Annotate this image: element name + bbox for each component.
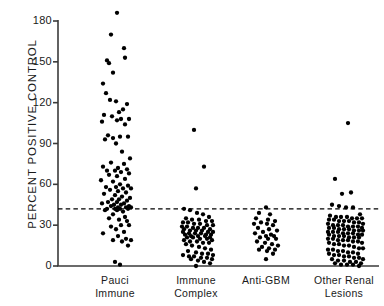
data-point bbox=[361, 222, 365, 226]
data-point bbox=[276, 243, 280, 247]
data-point bbox=[361, 228, 365, 232]
data-point bbox=[357, 246, 361, 250]
data-point bbox=[194, 250, 198, 254]
data-point bbox=[101, 81, 105, 85]
data-point bbox=[115, 174, 119, 178]
data-point bbox=[332, 226, 336, 230]
data-point bbox=[344, 205, 348, 209]
data-point bbox=[117, 218, 121, 222]
data-point bbox=[331, 248, 335, 252]
data-point bbox=[337, 242, 341, 246]
data-point bbox=[128, 156, 132, 160]
data-point bbox=[102, 192, 106, 196]
data-point bbox=[346, 121, 350, 125]
data-point bbox=[182, 207, 186, 211]
data-point bbox=[339, 215, 343, 219]
data-point bbox=[255, 239, 259, 243]
x-category-label: Anti-GBM bbox=[223, 274, 309, 287]
data-point bbox=[273, 248, 277, 252]
data-point bbox=[101, 164, 105, 168]
data-point bbox=[357, 235, 361, 239]
data-point bbox=[337, 234, 341, 238]
data-point bbox=[106, 133, 110, 137]
data-point bbox=[125, 219, 129, 223]
data-point bbox=[351, 205, 355, 209]
series-points-2 bbox=[252, 205, 280, 261]
data-point bbox=[186, 220, 190, 224]
data-point bbox=[200, 252, 204, 256]
data-point bbox=[330, 203, 334, 207]
data-point bbox=[120, 150, 124, 154]
data-point bbox=[109, 224, 113, 228]
data-point bbox=[114, 141, 118, 145]
data-point bbox=[355, 216, 359, 220]
data-point bbox=[188, 239, 192, 243]
data-point bbox=[340, 192, 344, 196]
data-point bbox=[108, 98, 112, 102]
data-point bbox=[107, 61, 111, 65]
data-point bbox=[256, 226, 260, 230]
data-point bbox=[266, 237, 270, 241]
data-point bbox=[206, 252, 210, 256]
data-point bbox=[190, 243, 194, 247]
data-point bbox=[326, 237, 330, 241]
data-point bbox=[122, 46, 126, 50]
data-point bbox=[273, 219, 277, 223]
data-point bbox=[210, 257, 214, 261]
data-point bbox=[127, 117, 131, 121]
data-point bbox=[118, 262, 122, 266]
data-point bbox=[264, 205, 268, 209]
data-point bbox=[122, 162, 126, 166]
data-point bbox=[100, 120, 104, 124]
data-point bbox=[124, 237, 128, 241]
data-point bbox=[351, 224, 355, 228]
data-point bbox=[184, 216, 188, 220]
data-point bbox=[115, 11, 119, 15]
data-point bbox=[127, 223, 131, 227]
data-point bbox=[274, 237, 278, 241]
data-point bbox=[336, 223, 340, 227]
data-point bbox=[119, 223, 123, 227]
data-point bbox=[101, 231, 105, 235]
chart-root: PERCENT POSITIVE CONTROL 030609012015018… bbox=[0, 0, 384, 306]
data-point bbox=[271, 223, 275, 227]
data-point bbox=[190, 218, 194, 222]
data-point bbox=[347, 243, 351, 247]
data-point bbox=[336, 238, 340, 242]
data-point bbox=[332, 253, 336, 257]
data-point bbox=[336, 230, 340, 234]
data-point bbox=[116, 234, 120, 238]
data-point bbox=[105, 169, 109, 173]
data-point bbox=[271, 252, 275, 256]
data-point bbox=[113, 169, 117, 173]
data-point bbox=[357, 264, 361, 268]
data-point bbox=[352, 256, 356, 260]
data-point bbox=[341, 238, 345, 242]
data-point bbox=[109, 204, 113, 208]
data-point bbox=[119, 170, 123, 174]
data-point bbox=[327, 226, 331, 230]
data-point bbox=[116, 189, 120, 193]
data-point bbox=[122, 230, 126, 234]
scatter-plot-canvas bbox=[0, 0, 384, 306]
data-point bbox=[336, 249, 340, 253]
data-point bbox=[121, 209, 125, 213]
data-point bbox=[332, 242, 336, 246]
data-point bbox=[194, 264, 198, 268]
data-point bbox=[268, 212, 272, 216]
data-point bbox=[104, 91, 108, 95]
data-point bbox=[346, 231, 350, 235]
data-point bbox=[261, 230, 265, 234]
data-point bbox=[119, 117, 123, 121]
data-point bbox=[205, 237, 209, 241]
series-points-0 bbox=[99, 11, 133, 267]
data-point bbox=[351, 231, 355, 235]
data-point bbox=[352, 220, 356, 224]
series-points-3 bbox=[326, 121, 365, 268]
data-point bbox=[109, 160, 113, 164]
data-point bbox=[108, 188, 112, 192]
data-point bbox=[358, 212, 362, 216]
data-point bbox=[110, 114, 114, 118]
data-point bbox=[341, 223, 345, 227]
data-point bbox=[345, 262, 349, 266]
